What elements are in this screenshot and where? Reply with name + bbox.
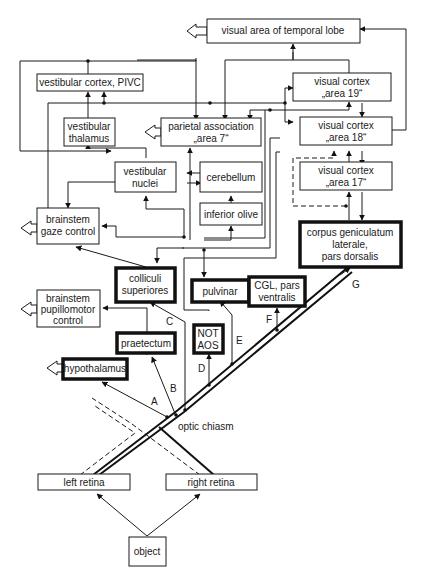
node-brainstem-gaze-control: brainstem gaze control bbox=[37, 208, 99, 244]
svg-text:ventralis: ventralis bbox=[258, 292, 295, 303]
node-temporal: visual area of temporal lobe bbox=[207, 19, 360, 43]
svg-text:visual cortex: visual cortex bbox=[318, 120, 374, 131]
svg-text:visual area of temporal lobe: visual area of temporal lobe bbox=[222, 25, 345, 36]
svg-text:„area 18“: „area 18“ bbox=[326, 132, 367, 143]
pathway-label-g: G bbox=[352, 279, 360, 290]
node-vestibular-thalamus: vestibular thalamus bbox=[64, 118, 115, 146]
node-inferior-olive: inferior olive bbox=[200, 203, 262, 225]
node-object: object bbox=[129, 537, 166, 566]
svg-text:brainstem: brainstem bbox=[46, 293, 90, 304]
svg-text:right retina: right retina bbox=[187, 477, 235, 488]
pathway-label-e: E bbox=[236, 335, 243, 346]
node-corpus-geniculatum-laterale-pars-dorsalis: corpus geniculatum laterale, pars dorsal… bbox=[300, 222, 401, 267]
node-praetectum: praetectum bbox=[117, 333, 175, 353]
svg-text:pupillomotor: pupillomotor bbox=[41, 304, 96, 315]
pathway-label-b: B bbox=[170, 383, 177, 394]
svg-text:parietal association: parietal association bbox=[168, 121, 254, 132]
svg-text:visual cortex: visual cortex bbox=[314, 76, 370, 87]
node-not-aos: NOT AOS bbox=[194, 325, 223, 353]
svg-text:brainstem: brainstem bbox=[46, 214, 90, 225]
pathway-label-d: D bbox=[198, 363, 205, 374]
svg-text:pulvinar: pulvinar bbox=[202, 286, 238, 297]
output-arrow-icon bbox=[21, 221, 37, 235]
svg-text:vestibular cortex, PIVC: vestibular cortex, PIVC bbox=[39, 77, 141, 88]
svg-text:left retina: left retina bbox=[63, 477, 105, 488]
svg-text:hypothalamus: hypothalamus bbox=[64, 363, 126, 374]
pathway-label-a: A bbox=[151, 396, 158, 407]
pathway-label-c: C bbox=[166, 316, 173, 327]
node-left-retina: left retina bbox=[38, 474, 130, 490]
node-visual-cortex-area-18: visual cortex „area 18“ bbox=[300, 117, 392, 145]
node-pulvinar: pulvinar bbox=[192, 280, 249, 302]
output-arrow-icon bbox=[187, 24, 207, 38]
svg-text:laterale,: laterale, bbox=[332, 239, 368, 250]
svg-text:AOS: AOS bbox=[197, 340, 218, 351]
node-visual-cortex-area-19: visual cortex „area 19“ bbox=[293, 73, 391, 101]
svg-text:„area 19“: „area 19“ bbox=[322, 88, 363, 99]
output-arrow-icon bbox=[21, 302, 37, 316]
svg-text:thalamus: thalamus bbox=[69, 133, 110, 144]
node-cerebellum: cerebellum bbox=[200, 162, 262, 192]
node-cgl-pars-ventralis: CGL, pars ventralis bbox=[249, 277, 305, 306]
pathway-diagram: visual area of temporal lobe vestibular … bbox=[0, 0, 422, 582]
svg-text:object: object bbox=[134, 546, 161, 557]
output-arrow-icon bbox=[145, 125, 161, 139]
svg-text:vestibular: vestibular bbox=[124, 166, 167, 177]
svg-text:control: control bbox=[53, 315, 83, 326]
node-vestibular-cortex-pivc: vestibular cortex, PIVC bbox=[37, 74, 143, 91]
svg-text:praetectum: praetectum bbox=[121, 338, 171, 349]
svg-text:colliculi: colliculi bbox=[129, 273, 161, 284]
svg-text:superiores: superiores bbox=[122, 285, 169, 296]
svg-text:cerebellum: cerebellum bbox=[207, 172, 256, 183]
node-vestibular-nuclei: vestibular nuclei bbox=[115, 162, 176, 192]
svg-text:inferior olive: inferior olive bbox=[204, 209, 258, 220]
svg-text:corpus geniculatum: corpus geniculatum bbox=[307, 227, 394, 238]
svg-text:„area 7“: „area 7“ bbox=[193, 133, 228, 144]
svg-text:„area 17“: „area 17“ bbox=[326, 177, 367, 188]
node-colliculi-superiores: colliculi superiores bbox=[116, 268, 175, 302]
optic-chiasm-label: optic chiasm bbox=[178, 421, 234, 432]
output-arrow-icon bbox=[47, 361, 63, 375]
svg-text:pars dorsalis: pars dorsalis bbox=[322, 251, 379, 262]
svg-text:vestibular: vestibular bbox=[68, 121, 111, 132]
node-parietal-association-area-7: parietal association „area 7“ bbox=[161, 118, 261, 146]
svg-text:visual cortex: visual cortex bbox=[318, 165, 374, 176]
svg-text:NOT: NOT bbox=[197, 328, 218, 339]
node-right-retina: right retina bbox=[166, 474, 257, 490]
node-brainstem-pupillomotor-control: brainstem pupillomotor control bbox=[37, 290, 100, 327]
pathway-label-f: F bbox=[266, 314, 272, 325]
svg-text:nuclei: nuclei bbox=[132, 178, 158, 189]
svg-text:gaze control: gaze control bbox=[41, 226, 95, 237]
node-hypothalamus: hypothalamus bbox=[63, 359, 127, 379]
node-visual-cortex-area-17: visual cortex „area 17“ bbox=[300, 162, 392, 190]
svg-text:CGL, pars: CGL, pars bbox=[254, 280, 300, 291]
